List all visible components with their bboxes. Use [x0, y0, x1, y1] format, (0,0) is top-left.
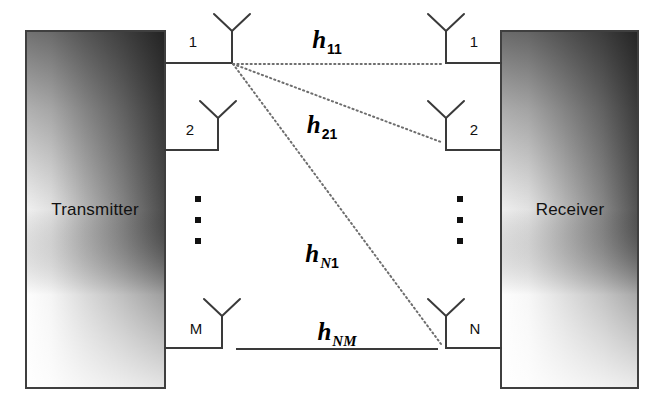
channel-line-hn1	[233, 64, 441, 344]
tx-antenna-1-feedline	[165, 31, 232, 63]
tx-ellipsis-dot	[195, 196, 201, 202]
transmitter-label: Transmitter	[51, 200, 139, 219]
transmitter-block: Transmitter	[26, 31, 165, 388]
rx-antenna-n-icon	[428, 299, 464, 316]
tx-antenna-2-icon	[200, 101, 236, 118]
channel-path-h21: h21	[233, 64, 441, 142]
figure-canvas: Transmitter Receiver 1 2	[0, 0, 659, 414]
receiver-block: Receiver	[501, 31, 638, 388]
rx-ellipsis-dot	[457, 196, 463, 202]
channel-sub2-h11: 1	[334, 41, 342, 57]
channel-path-hn1: hN1	[233, 64, 441, 344]
channel-label-hnm: hNM	[317, 318, 357, 349]
tx-ellipsis-dot	[195, 238, 201, 244]
channel-sub2-h21: 1	[329, 126, 337, 142]
receiver-label: Receiver	[536, 200, 605, 219]
rx-ellipsis-dot	[457, 217, 463, 223]
tx-antenna-m: M	[165, 299, 240, 348]
channel-path-h11: h11	[233, 26, 441, 64]
rx-antenna-1-icon	[428, 14, 464, 31]
rx-antenna-2-label: 2	[470, 121, 478, 138]
rx-antenna-1: 1	[428, 14, 501, 63]
tx-antenna-2-label: 2	[186, 121, 194, 138]
channel-symbol-hn1: h	[305, 240, 319, 267]
tx-antenna-1: 1	[165, 14, 250, 63]
rx-antenna-n-label: N	[470, 320, 481, 337]
channel-label-h11: h11	[312, 26, 342, 57]
channel-sub1-h21: 2	[322, 126, 330, 142]
channel-symbol-hnm: h	[317, 318, 331, 345]
channel-label-hn1: hN1	[305, 240, 339, 271]
rx-antenna-2-icon	[428, 101, 464, 118]
rx-antenna-2: 2	[428, 101, 501, 150]
channel-label-h21: h21	[307, 111, 338, 142]
rx-antenna-1-label: 1	[470, 33, 478, 50]
tx-antenna-1-label: 1	[189, 33, 197, 50]
channel-path-hnm: hNM	[236, 318, 438, 349]
mimo-diagram: Transmitter Receiver 1 2	[0, 0, 659, 414]
tx-ellipsis	[195, 196, 201, 244]
channel-sub2-hnm: M	[342, 333, 357, 349]
channel-symbol-h21: h	[307, 111, 321, 138]
channel-sub2-hn1: 1	[331, 255, 339, 271]
tx-antenna-m-icon	[204, 299, 240, 316]
channel-symbol-h11: h	[312, 26, 326, 53]
tx-ellipsis-dot	[195, 217, 201, 223]
tx-antenna-m-label: M	[190, 320, 203, 337]
tx-antenna-1-icon	[214, 14, 250, 31]
rx-ellipsis-dot	[457, 238, 463, 244]
rx-ellipsis	[457, 196, 463, 244]
tx-antenna-2: 2	[165, 101, 236, 150]
